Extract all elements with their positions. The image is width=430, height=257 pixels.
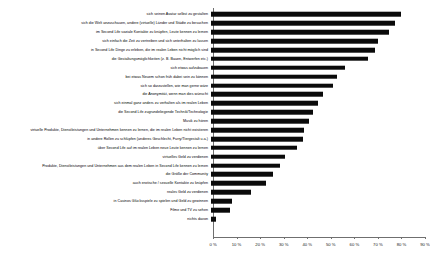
x-tick-mark xyxy=(425,237,426,240)
x-tick-mark xyxy=(260,237,261,240)
x-tick-label: 90 % xyxy=(420,242,430,247)
bar-chart: sich seinen Avatar selbst zu gestaltensi… xyxy=(0,0,430,257)
x-tick-label: 30 % xyxy=(279,242,289,247)
x-tick-mark xyxy=(237,237,238,240)
plot-area: sich seinen Avatar selbst zu gestaltensi… xyxy=(0,0,430,257)
x-tick-label: 50 % xyxy=(326,242,336,247)
x-tick-mark xyxy=(284,237,285,240)
x-tick-mark xyxy=(354,237,355,240)
x-tick-mark xyxy=(213,237,214,240)
x-tick-label: 70 % xyxy=(373,242,383,247)
x-tick-mark xyxy=(307,237,308,240)
x-tick-mark xyxy=(378,237,379,240)
x-tick-mark xyxy=(331,237,332,240)
x-tick-label: 20 % xyxy=(255,242,265,247)
x-tick-label: 60 % xyxy=(350,242,360,247)
x-tick-mark xyxy=(401,237,402,240)
x-tick-label: 0 % xyxy=(209,242,216,247)
x-tick-label: 80 % xyxy=(397,242,407,247)
x-tick-label: 40 % xyxy=(302,242,312,247)
x-axis-ticks: 0 %10 %20 %30 %40 %50 %60 %70 %80 %90 % xyxy=(0,0,430,257)
x-tick-label: 10 % xyxy=(232,242,242,247)
